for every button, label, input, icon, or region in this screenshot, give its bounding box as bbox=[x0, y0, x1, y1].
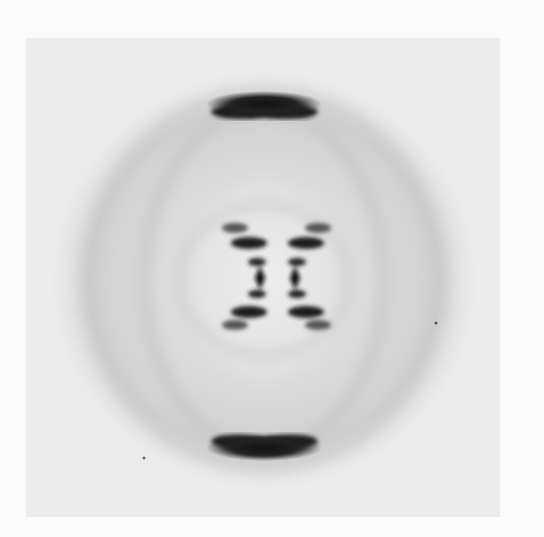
speck bbox=[143, 457, 146, 460]
layer-spot bbox=[248, 290, 266, 298]
layer-spot bbox=[305, 223, 331, 233]
layer-spot bbox=[231, 237, 267, 249]
diffraction-photograph bbox=[26, 38, 500, 517]
layer-spot bbox=[305, 320, 331, 330]
layer-spot bbox=[288, 290, 306, 298]
diffraction-pattern bbox=[26, 38, 500, 517]
meridional-arc-bottom-core bbox=[206, 435, 322, 461]
layer-spot bbox=[231, 306, 267, 318]
layer-spot bbox=[288, 306, 324, 318]
layer-spot bbox=[248, 258, 266, 266]
layer-spot bbox=[222, 320, 248, 330]
layer-spot bbox=[288, 237, 324, 249]
layer-spot bbox=[222, 223, 248, 233]
layer-spot bbox=[288, 258, 306, 266]
meridional-arc-top-core bbox=[206, 91, 322, 117]
speck bbox=[435, 322, 438, 325]
